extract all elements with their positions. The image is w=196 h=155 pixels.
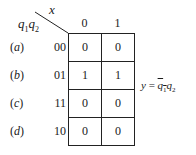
row-code-11: 11 <box>36 96 66 111</box>
row-code-00: 00 <box>36 40 66 55</box>
row-code-01: 01 <box>36 68 66 83</box>
column-header-0: 0 <box>68 16 101 31</box>
karnaugh-map-grid: 0 0 1 1 0 0 0 0 <box>68 33 135 146</box>
boolean-equation: y = q1q2 <box>141 79 176 94</box>
equation-term1-complemented: q1 <box>158 79 167 91</box>
row-code-10: 10 <box>36 124 66 139</box>
equation-equals: = <box>146 79 158 91</box>
column-variable-label: x <box>49 2 55 18</box>
column-header-1: 1 <box>101 16 134 31</box>
kmap-row-b: 1 1 <box>69 62 135 90</box>
cell-00-1: 0 <box>102 34 135 62</box>
kmap-row-a: 0 0 <box>69 34 135 62</box>
kmap-row-c: 0 0 <box>69 90 135 118</box>
kmap-row-d: 0 0 <box>69 118 135 146</box>
cell-00-0: 0 <box>69 34 102 62</box>
cell-10-1: 0 <box>102 118 135 146</box>
cell-11-0: 0 <box>69 90 102 118</box>
row-var-2-sub: 2 <box>35 25 39 34</box>
cell-01-1: 1 <box>102 62 135 90</box>
cell-11-1: 0 <box>102 90 135 118</box>
cell-01-0: 1 <box>69 62 102 90</box>
equation-term2: q2 <box>167 79 176 91</box>
row-variables-label: q1q2 <box>18 16 39 34</box>
cell-10-0: 0 <box>69 118 102 146</box>
